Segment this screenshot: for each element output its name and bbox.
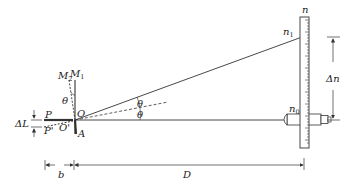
label-n0: n0 [289,104,300,116]
optical-lever-diagram: P P' O O' A M2 M1 θ θ θ ΔL b D n n1 n0 Δ… [0,0,349,188]
normal-line [75,102,168,120]
label-P: P [45,110,52,120]
label-n: n [302,5,308,15]
label-theta-mirror: θ [62,96,68,106]
label-delta-n: Δn [326,74,340,84]
label-delta-L: ΔL [15,119,29,129]
telescope-eyepiece [321,116,328,124]
label-theta-lower: θ [137,110,143,120]
label-n1: n1 [283,27,294,39]
mirror-foot [75,120,76,134]
label-D: D [183,170,191,180]
reflected-ray [75,37,302,120]
mirror-M2 [69,80,75,120]
label-O-prime: O' [59,123,70,133]
measuring-scale [300,17,309,148]
label-P-prime: P' [44,126,53,136]
diagram-graphics [0,0,349,188]
label-b: b [58,170,64,180]
telescope-objective [284,114,287,125]
label-A: A [78,129,85,139]
label-theta-upper: θ [137,99,143,109]
label-M1: M1 [70,69,84,81]
label-O: O [77,109,85,119]
